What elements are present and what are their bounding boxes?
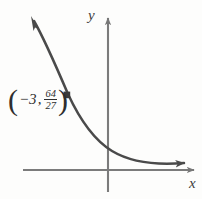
annotation-close-paren: ) xyxy=(58,88,68,111)
coordinate-annotation: ( −3 , 64 27 ) xyxy=(8,88,68,111)
annotation-x-value: −3 xyxy=(18,92,38,107)
fraction-numerator: 64 xyxy=(44,88,57,99)
exponential-decay-figure: . y x ( −3 , 64 27 ) xyxy=(0,0,202,199)
annotation-fraction: 64 27 xyxy=(43,88,58,111)
x-axis-label: x xyxy=(189,176,196,191)
annotation-open-paren: ( xyxy=(8,88,18,111)
y-axis-label: y xyxy=(88,8,95,23)
fraction-denominator: 27 xyxy=(44,99,57,111)
